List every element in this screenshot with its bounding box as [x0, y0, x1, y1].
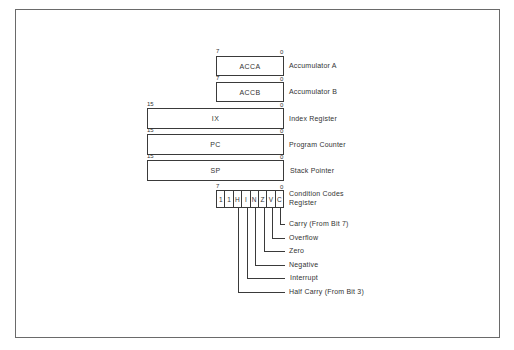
pc-name: PC	[210, 141, 221, 148]
acca-register: ACCA	[216, 56, 284, 76]
interrupt-leader-vertical	[247, 208, 248, 278]
accb-register: ACCB	[216, 82, 284, 102]
flag-zero-label: Zero	[289, 247, 304, 255]
half-carry-leader-vertical	[238, 208, 239, 292]
flag-interrupt-label: Interrupt	[290, 274, 318, 282]
acca-low-bit: 0	[280, 49, 283, 55]
sp-register: SP	[147, 160, 284, 181]
ccr-bit-n: N	[251, 191, 259, 207]
flag-negative-label: Negative	[289, 261, 318, 269]
negative-leader-horizontal	[255, 265, 285, 266]
half-carry-leader-horizontal	[238, 292, 285, 293]
ix-high-bit: 15	[147, 101, 154, 107]
ccr-bit-c: C	[276, 191, 283, 207]
ix-description: Index Register	[289, 115, 337, 123]
ccr-bit-z: Z	[259, 191, 267, 207]
acca-name: ACCA	[239, 63, 260, 70]
flag-overflow-label: Overflow	[289, 234, 318, 242]
sp-high-bit: 15	[147, 153, 154, 159]
sp-name: SP	[210, 167, 220, 174]
flag-carry-label: Carry (From Bit 7)	[289, 220, 349, 228]
ccr-bit-6: 1	[225, 191, 233, 207]
acca-high-bit: 7	[216, 48, 219, 54]
ix-register: IX	[147, 108, 284, 129]
flag-half-carry-label: Half Carry (From Bit 3)	[289, 288, 364, 296]
accb-high-bit: 7	[216, 75, 219, 81]
ccr-bit-v: V	[267, 191, 275, 207]
ccr-description-line2: Register	[289, 199, 317, 207]
ccr-bit-i: I	[242, 191, 250, 207]
ccr-high-bit: 7	[216, 183, 219, 189]
overflow-leader-vertical	[272, 208, 273, 238]
negative-leader-vertical	[255, 208, 256, 265]
accb-description: Accumulator B	[289, 88, 337, 96]
pc-description: Program Counter	[289, 141, 346, 149]
sp-description: Stack Pointer	[290, 167, 334, 175]
ccr-description-line1: Condition Codes	[289, 190, 344, 198]
interrupt-leader-horizontal	[247, 278, 285, 279]
overflow-leader-horizontal	[272, 238, 285, 239]
ix-name: IX	[212, 115, 219, 122]
pc-register: PC	[147, 134, 284, 155]
carry-leader-vertical	[280, 208, 281, 224]
pc-high-bit: 15	[147, 127, 154, 133]
acca-description: Accumulator A	[289, 62, 337, 70]
ccr-register: 1 1 H I N Z V C	[216, 190, 284, 208]
accb-name: ACCB	[239, 89, 260, 96]
ccr-bit-h: H	[234, 191, 242, 207]
zero-leader-vertical	[264, 208, 265, 251]
ccr-bit-7: 1	[217, 191, 225, 207]
zero-leader-horizontal	[264, 251, 285, 252]
carry-leader-horizontal	[280, 224, 285, 225]
